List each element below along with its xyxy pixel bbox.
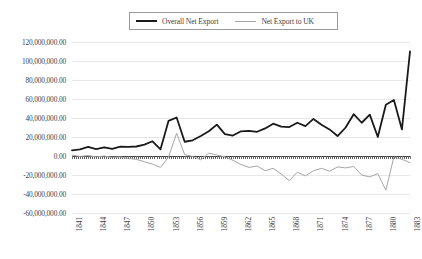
x-axis-tick	[410, 156, 411, 159]
x-axis-tick-label: 1874	[341, 217, 350, 231]
y-axis-tick-label: 20,000,000.00	[25, 133, 66, 142]
x-axis-tick	[72, 156, 73, 159]
x-axis-tick	[313, 156, 314, 159]
x-axis-tick-label: 1868	[292, 217, 301, 231]
x-axis-tick	[321, 156, 322, 159]
x-axis-tick	[112, 156, 113, 159]
x-axis-tick	[201, 156, 202, 159]
x-axis-tick	[370, 156, 371, 159]
series-line-net-export-to-uk	[72, 133, 410, 190]
x-axis-tick	[144, 156, 145, 159]
legend-line-swatch-icon	[136, 20, 157, 22]
legend-line-swatch-icon	[235, 21, 256, 22]
x-axis-tick	[330, 156, 331, 159]
x-axis-tick	[297, 156, 298, 159]
x-axis-tick-label: 1865	[268, 217, 277, 231]
legend-label-overall-net-export: Overall Net Export	[162, 17, 218, 26]
x-axis-tick	[225, 156, 226, 159]
x-axis-tick	[305, 156, 306, 159]
x-axis-tick	[233, 156, 234, 159]
y-axis-tick-label: -60,000,000.00	[23, 209, 66, 218]
x-axis-tick	[104, 156, 105, 159]
x-axis-tick-label: 1841	[75, 217, 84, 231]
y-axis-tick-label: 60,000,000.00	[25, 95, 66, 104]
x-axis-tick	[161, 156, 162, 159]
x-axis-tick	[273, 156, 274, 159]
y-axis-tick-label: -40,000,000.00	[23, 190, 66, 199]
x-axis-tick	[88, 156, 89, 159]
x-axis-tick	[257, 156, 258, 159]
legend-item-net-export-to-uk[interactable]: Net Export to UK	[235, 13, 314, 29]
x-axis-tick	[378, 156, 379, 159]
x-axis-tick	[209, 156, 210, 159]
series-line-overall-net-export	[72, 52, 410, 151]
x-axis-tick	[177, 156, 178, 159]
x-axis-labels: 1841184418471850185318561859186218651868…	[72, 213, 410, 259]
y-axis-tick-label: 80,000,000.00	[25, 76, 66, 85]
y-axis-tick-label: 40,000,000.00	[25, 114, 66, 123]
legend-item-overall-net-export[interactable]: Overall Net Export	[136, 13, 218, 29]
y-axis-tick-label: -20,000,000.00	[23, 171, 66, 180]
x-axis-tick-label: 1844	[99, 217, 108, 231]
x-axis-tick-label: 1853	[172, 217, 181, 231]
x-axis-tick	[96, 156, 97, 159]
x-axis-tick	[362, 156, 363, 159]
chart-legend: Overall Net Export Net Export to UK	[129, 12, 338, 30]
x-axis-tick	[386, 156, 387, 159]
x-axis-tick	[193, 156, 194, 159]
legend-label-net-export-to-uk: Net Export to UK	[261, 17, 314, 26]
x-axis-tick	[265, 156, 266, 159]
x-axis-tick	[217, 156, 218, 159]
y-axis-labels: 120,000,000.00100,000,000.0080,000,000.0…	[0, 0, 72, 259]
x-axis-tick	[402, 156, 403, 159]
x-axis-tick	[281, 156, 282, 159]
x-axis-tick-label: 1847	[123, 217, 132, 231]
x-axis-tick	[80, 156, 81, 159]
x-axis-tick	[185, 156, 186, 159]
y-axis-tick-label: 120,000,000.00	[22, 38, 66, 47]
x-axis-tick	[136, 156, 137, 159]
y-axis-tick-label: 100,000,000.00	[22, 57, 66, 66]
x-axis-tick-label: 1883	[413, 217, 422, 231]
x-axis-tick	[289, 156, 290, 159]
x-axis-tick	[241, 156, 242, 159]
plot-area	[72, 42, 410, 213]
x-axis-tick-label: 1871	[316, 217, 325, 231]
series-layer	[72, 42, 410, 213]
x-axis-tick	[152, 156, 153, 159]
x-axis-tick-label: 1862	[244, 217, 253, 231]
x-axis-tick	[338, 156, 339, 159]
x-axis-tick-label: 1859	[220, 217, 229, 231]
x-axis-tick-label: 1880	[389, 217, 398, 231]
x-axis-tick-label: 1877	[365, 217, 374, 231]
x-axis-tick	[249, 156, 250, 159]
x-axis-tick	[354, 156, 355, 159]
x-axis-tick	[394, 156, 395, 159]
x-axis-tick	[169, 156, 170, 159]
y-axis-tick-label: 0.00	[54, 152, 66, 161]
x-axis-tick-label: 1850	[147, 217, 156, 231]
x-axis-tick	[120, 156, 121, 159]
x-axis-tick	[128, 156, 129, 159]
x-axis-tick-label: 1856	[196, 217, 205, 231]
x-axis-tick	[346, 156, 347, 159]
